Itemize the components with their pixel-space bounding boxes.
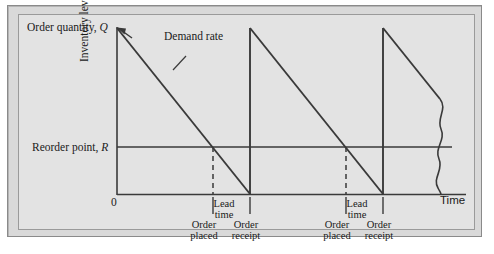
lead-time-label-2: Lead time [329, 198, 385, 221]
origin-label: 0 [111, 196, 117, 208]
lead-time-line-1: Lead [329, 198, 385, 209]
x-axis-title: Time [440, 194, 465, 206]
reorder-point-text: Reorder point, [32, 141, 101, 153]
lead-time-line-1: Lead [196, 198, 252, 209]
y-axis-top-label: Order quantity, Q [27, 21, 108, 33]
reorder-point-label: Reorder point, R [32, 141, 108, 153]
order-placed-label-1: Order placed [185, 219, 223, 242]
lead-time-label-1: Lead time [196, 198, 252, 221]
order-receipt-line-2: receipt [360, 230, 398, 241]
order-receipt-label-2: Order receipt [360, 219, 398, 242]
order-placed-line-1: Order [185, 219, 223, 230]
order-event-labels-2: Order placed Order receipt [318, 219, 398, 242]
demand-rate-annotation: Demand rate [164, 30, 220, 42]
order-receipt-line-1: Order [227, 219, 265, 230]
y-axis-title: Inventory level [78, 0, 90, 62]
order-placed-line-2: placed [318, 230, 356, 241]
order-receipt-label-1: Order receipt [227, 219, 265, 242]
order-placed-label-2: Order placed [318, 219, 356, 242]
figure-screenshot: Order quantity, Q Reorder point, R Inven… [0, 0, 494, 254]
order-quantity-symbol: Q [99, 21, 107, 33]
order-receipt-line-1: Order [360, 219, 398, 230]
order-placed-line-1: Order [318, 219, 356, 230]
order-event-labels-1: Order placed Order receipt [185, 219, 265, 242]
order-receipt-line-2: receipt [227, 230, 265, 241]
order-placed-line-2: placed [185, 230, 223, 241]
reorder-point-symbol: R [101, 141, 108, 153]
